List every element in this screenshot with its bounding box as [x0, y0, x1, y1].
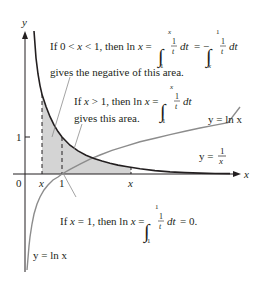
svg-text:x: x	[167, 28, 172, 36]
annotation-left-area: If 0 < x < 1, then ln x = ∫ x 1 1 t dt =…	[50, 28, 239, 78]
svg-text:= 0.: = 0.	[180, 215, 197, 227]
y-axis-label: y	[21, 16, 27, 28]
svg-text:x: x	[218, 156, 223, 166]
svg-text:t: t	[172, 47, 175, 56]
x-axis-label: x	[243, 168, 249, 180]
annotation-at-one: If x = 1, then ln x = ∫ 1 1 1 t dt = 0.	[60, 203, 197, 245]
svg-text:1: 1	[155, 203, 159, 211]
svg-text:y =: y =	[199, 150, 213, 162]
leader-line-one	[64, 175, 76, 197]
x-tick-label-right-x: x	[127, 177, 133, 189]
svg-text:x: x	[169, 83, 174, 91]
origin-label: 0	[16, 177, 22, 189]
svg-text:1: 1	[147, 237, 151, 245]
svg-text:gives the negative of this are: gives the negative of this area.	[50, 66, 184, 78]
y-tick-label-one: 1	[16, 131, 22, 143]
svg-text:dt: dt	[180, 40, 190, 52]
leader-line-left	[52, 77, 70, 137]
svg-text:dt: dt	[167, 215, 177, 227]
x-axis-arrow-icon	[233, 171, 241, 177]
svg-text:dt: dt	[229, 40, 239, 52]
svg-text:1: 1	[175, 92, 179, 101]
svg-text:1: 1	[172, 37, 176, 46]
annotation-right-area: If x > 1, then ln x = ∫ x 1 1 t dt gives…	[74, 83, 193, 125]
svg-text:If x > 1, then ln x =: If x > 1, then ln x =	[74, 95, 159, 107]
svg-text:gives this area.: gives this area.	[74, 112, 140, 124]
x-tick-label-one: 1	[59, 177, 65, 189]
svg-text:1: 1	[220, 146, 225, 156]
svg-text:t: t	[221, 47, 224, 56]
leader-line-right	[74, 124, 82, 149]
svg-text:t: t	[159, 222, 162, 231]
svg-text:If x = 1, then ln x =: If x = 1, then ln x =	[60, 215, 145, 227]
svg-text:1: 1	[221, 37, 225, 46]
ln-x-label-right: y = ln x	[208, 113, 243, 125]
reciprocal-label: y = 1 x	[199, 146, 226, 166]
x-tick-label-left-x: x	[38, 177, 44, 189]
svg-text:1: 1	[159, 212, 163, 221]
y-axis-arrow-icon	[22, 31, 28, 39]
svg-text:If 0 < x < 1, then ln x =: If 0 < x < 1, then ln x =	[50, 40, 152, 52]
svg-text:1: 1	[216, 28, 220, 36]
ln-x-label-bottom: y = ln x	[33, 249, 68, 261]
diagram-canvas: y x 0 1 x 1 x y = ln x y = 1 x y = ln x …	[0, 0, 257, 293]
svg-text:dt: dt	[183, 95, 193, 107]
svg-text:t: t	[175, 102, 178, 111]
svg-text:1: 1	[162, 117, 166, 125]
